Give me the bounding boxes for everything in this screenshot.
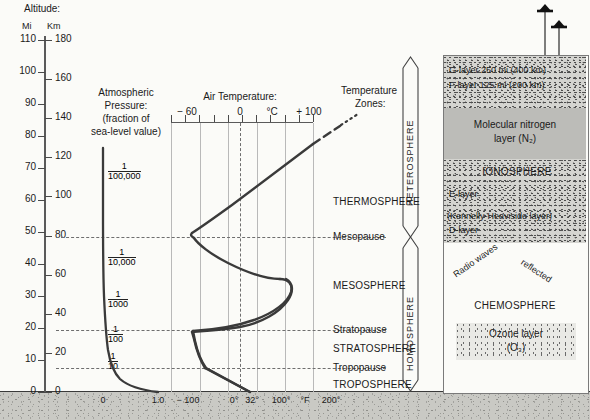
atmosphere-diagram: Altitude: Mi Km 110100908070605040302010…: [0, 0, 590, 420]
temp-curve-main: [189, 133, 316, 392]
d-layer-label: D-layer: [449, 226, 478, 235]
ozone-label-l1: Ozone layer: [489, 329, 543, 340]
ozone-label-l2: (O₃): [507, 343, 526, 354]
zone-stratosphere: STRATOSPHERE: [333, 344, 416, 355]
nitrogen-label-l2: layer (N₂): [494, 134, 536, 145]
zone-mesopause: Mesopause: [333, 232, 385, 243]
pressure-curve-group: [103, 148, 158, 392]
heterosphere-arrow-top: [403, 57, 418, 68]
heterosphere-arrow-bottom: [403, 226, 418, 237]
zones-heading-l2: Zones:: [355, 99, 386, 110]
zone-troposphere: TROPOSPHERE: [333, 380, 412, 391]
chemosphere-label: CHEMOSPHERE: [474, 301, 556, 312]
curve-thermosphere: [192, 144, 313, 233]
temperature-profile: [190, 133, 316, 392]
homosphere-label: HOMOSPHERE: [406, 276, 415, 371]
e-layer-label: E-layer: [449, 190, 478, 199]
curve-stratosphere: [193, 279, 291, 331]
bottom-scale-1: 1.0: [152, 396, 165, 405]
f-layer-label: F-layer 125 mi (200 km): [449, 81, 545, 90]
pressure-curve: [103, 148, 158, 392]
g-layer-label: G-layer 250 mi (400 km): [449, 66, 546, 75]
bottom-scale-6: °F: [300, 396, 309, 405]
kennelly-heaviside-label: (Kennelly-Heaviside layer): [447, 212, 552, 221]
zones-heading-l1: Temperature: [341, 86, 397, 97]
zone-mesosphere: MESOSPHERE: [333, 281, 406, 292]
heterosphere-label: HETEROSPHERE: [406, 96, 415, 206]
homosphere-arrow-top: [403, 237, 418, 248]
bottom-scale-5: 100°: [272, 396, 291, 405]
bottom-scale-3: 0°: [230, 396, 239, 405]
bottom-scale-4: 32°: [245, 396, 259, 405]
curve-thermosphere-dashed: [313, 126, 340, 144]
zone-thermosphere: THERMOSPHERE: [333, 197, 420, 208]
curve-tropopause: [193, 331, 206, 368]
bottom-scale-2: − 100: [177, 396, 200, 405]
curve-troposphere: [206, 368, 250, 392]
bottom-scale-7: 200°: [322, 396, 341, 405]
bottom-scale-0: 0: [100, 396, 105, 405]
curve-thermosphere-dotted: [341, 114, 358, 125]
zone-stratopause: Stratopause: [333, 325, 387, 336]
zone-tropopause: Tropopause: [333, 363, 386, 374]
nitrogen-label-l1: Molecular nitrogen: [474, 120, 556, 131]
curve-mesosphere: [194, 238, 280, 279]
ionosphere-label: IONOSPHERE: [482, 167, 552, 178]
